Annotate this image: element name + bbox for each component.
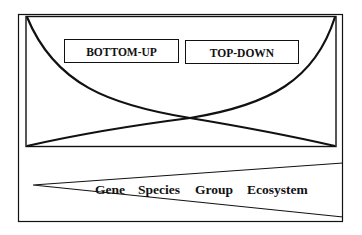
bottom-up-label: BOTTOM-UP	[86, 46, 157, 58]
scale-level-species: Species	[138, 182, 180, 197]
top-down-label-box: TOP-DOWN	[186, 41, 299, 64]
top-down-label: TOP-DOWN	[210, 47, 275, 59]
scale-level-ecosystem: Ecosystem	[247, 182, 308, 197]
top-down-curve	[27, 17, 335, 146]
scale-level-gene: Gene	[95, 182, 125, 197]
upper-panel-frame	[26, 17, 336, 147]
bottom-up-curve	[27, 17, 335, 146]
bottom-up-top-down-diagram: BOTTOM-UP TOP-DOWN Gene Species Group Ec…	[0, 0, 362, 235]
bottom-up-label-box: BOTTOM-UP	[65, 40, 179, 63]
scale-level-group: Group	[195, 182, 233, 197]
